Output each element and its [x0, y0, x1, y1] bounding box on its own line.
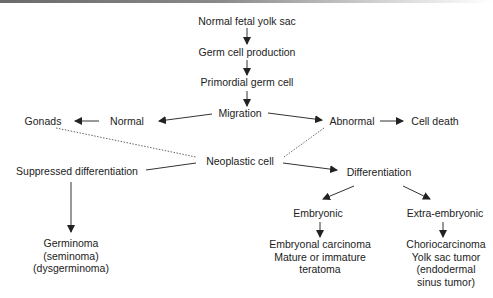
node-embryonic: Embryonic: [293, 207, 343, 220]
node-choriocarcinoma: Choriocarcinoma Yolk sac tumor (endoderm…: [406, 238, 485, 288]
node-migration: Migration: [218, 107, 261, 120]
node-cell-death: Cell death: [411, 115, 458, 128]
chorio-line-2: Yolk sac tumor: [406, 251, 485, 264]
edge-migration-to-normal: [159, 114, 212, 121]
node-neoplastic-cell: Neoplastic cell: [206, 155, 274, 168]
node-normal-fetal-yolk-sac: Normal fetal yolk sac: [198, 15, 295, 28]
edge-neoplastic-to-differentiation: [283, 163, 337, 170]
node-germ-cell-production: Germ cell production: [199, 46, 296, 59]
node-normal: Normal: [110, 115, 144, 128]
germinoma-line-3: (dysgerminoma): [33, 262, 109, 275]
node-primordial-germ-cell: Primordial germ cell: [201, 76, 294, 89]
node-germinoma: Germinoma (seminoma) (dysgerminoma): [33, 237, 109, 275]
node-gonads: Gonads: [25, 115, 62, 128]
node-differentiation: Differentiation: [347, 166, 412, 179]
chorio-line-1: Choriocarcinoma: [406, 238, 485, 251]
edge-gonads-to-neoplastic-dotted: [56, 128, 196, 157]
edge-diff-to-extra: [403, 186, 430, 199]
chorio-line-3: (endodermal: [406, 263, 485, 276]
germinoma-line-1: Germinoma: [33, 237, 109, 250]
embryonal-line-1: Embryonal carcinoma: [269, 238, 371, 251]
node-embryonal-carcinoma: Embryonal carcinoma Mature or immature t…: [269, 238, 371, 276]
node-extra-embryonic: Extra-embryonic: [407, 207, 483, 220]
edge-neoplastic-to-suppressed: [146, 163, 196, 170]
embryonal-line-3: teratoma: [269, 263, 371, 276]
edge-diff-to-embryonic: [323, 186, 354, 199]
edge-migration-to-abnormal: [268, 113, 322, 120]
germinoma-line-2: (seminoma): [33, 250, 109, 263]
edge-abnormal-to-neoplastic-dotted: [284, 128, 324, 157]
node-suppressed-differentiation: Suppressed differentiation: [16, 165, 138, 178]
node-abnormal: Abnormal: [330, 115, 375, 128]
chorio-line-4: sinus tumor): [406, 276, 485, 289]
embryonal-line-2: Mature or immature: [269, 251, 371, 264]
